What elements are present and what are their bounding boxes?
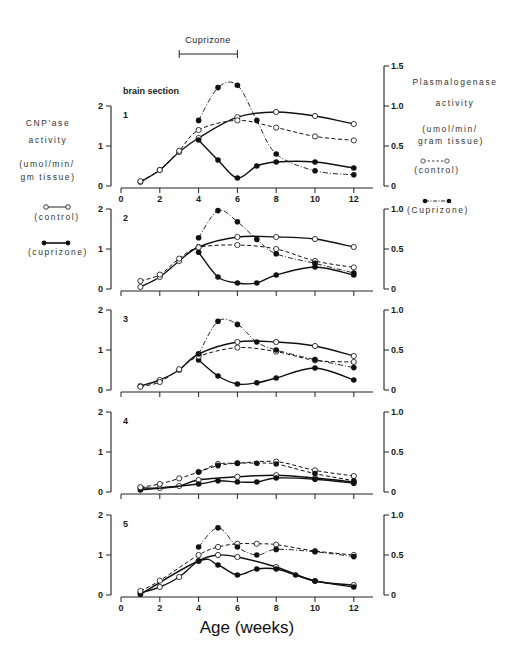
data-point-open [235,474,240,479]
data-point-filled [235,544,241,550]
series-line [140,341,353,386]
data-point-open [274,234,279,239]
panel-number: 5 [123,519,128,529]
right-tick-label: 0 [391,385,396,395]
legend-plasmalogenase-cuprizone: (Cuprizone) [407,199,469,215]
data-point-filled [235,280,241,286]
series-plasmalogenase-control [138,541,357,593]
left-tick-label: 2 [98,204,103,214]
right-axis-title-line: gram tissue) [418,136,484,146]
left-tick-label: 2 [98,305,103,315]
right-legend: (control) (Cuprizone) [407,159,469,215]
data-point-open [235,339,240,344]
right-tick-label: 0 [391,590,396,600]
series-line [199,252,354,284]
data-point-open [235,345,240,350]
left-axis-title-line: gm tissue) [20,172,75,182]
x-tick-label: 8 [274,194,279,204]
data-point-filled [273,347,279,353]
right-tick-label: 0.5 [391,141,404,151]
legend-label: (control) [414,165,460,175]
left-legend: (control) (cuprizone) [28,205,88,257]
data-point-filled [196,558,202,564]
data-point-filled [235,572,241,578]
data-point-open [235,118,240,123]
x-tick-label: 10 [310,603,320,613]
data-point-filled [235,175,241,181]
x-tick-label: 4 [196,603,201,613]
series-line [140,544,353,591]
series-plasmalogenase-control [138,345,357,389]
data-point-filled [235,82,241,88]
data-point-filled [312,476,318,482]
series-line [199,140,354,178]
data-point-open [254,541,259,546]
left-tick-label: 1 [98,244,103,254]
data-point-filled [273,547,279,553]
right-tick-label: 0 [391,181,396,191]
series-cnpase-cuprizone [138,558,357,597]
data-point-open [177,256,182,261]
x-tick-label: 8 [274,603,279,613]
right-axis-title-line: activity [436,98,475,108]
data-point-filled [215,157,221,163]
x-tick-label: 12 [349,603,359,613]
data-point-open [177,574,182,579]
x-tick-label: 0 [118,194,123,204]
panel-5: 01200.51.00246810125 [98,510,404,613]
data-point-open [157,167,162,172]
data-point-filled [273,566,279,572]
left-tick-label: 1 [98,550,103,560]
data-point-open [215,552,220,557]
data-point-filled [273,475,279,481]
data-point-filled [351,165,357,171]
x-tick-label: 6 [235,603,240,613]
panel-3: 01200.51.03 [98,305,404,397]
x-tick-label: 12 [349,194,359,204]
series-line [140,461,353,487]
right-tick-label: 0.5 [391,447,404,457]
data-point-filled [215,318,221,324]
data-point-filled [235,219,241,225]
data-point-open [351,244,356,249]
x-axis-title: Age (weeks) [200,618,294,637]
panels: 01200.51.01.5024681012101200.51.0201200.… [98,61,404,613]
data-point-open [235,234,240,239]
x-tick-label: 2 [157,194,162,204]
data-point-filled [351,478,357,484]
data-point-open [351,138,356,143]
data-point-filled [196,544,202,550]
data-point-filled [196,351,202,357]
data-point-filled [273,251,279,257]
data-point-filled [235,381,241,387]
data-point-open [157,379,162,384]
data-point-open [312,236,317,241]
data-point-filled [215,208,221,214]
series-line [140,112,353,182]
right-tick-label: 1.0 [391,101,404,111]
data-point-filled [273,159,279,165]
data-point-filled [351,584,357,590]
data-point-open [138,284,143,289]
data-point-open [351,121,356,126]
right-tick-label: 0 [391,487,396,497]
data-point-filled [312,578,318,584]
data-point-filled [196,469,202,475]
data-point-filled [235,479,241,485]
figure: Cuprizone brain section CNP'ase activity… [0,0,520,664]
data-point-filled [254,237,260,243]
right-tick-label: 1.0 [391,407,404,417]
left-tick-label: 0 [98,284,103,294]
data-point-filled [312,261,318,267]
data-point-open [138,485,143,490]
series-line [140,236,353,287]
cuprizone-label: Cuprizone [185,35,231,45]
data-point-open [274,542,279,547]
data-point-open [177,148,182,153]
data-point-open [351,473,356,478]
right-axis-title: Plasmalogenase activity (umol/min/ gram … [412,77,497,146]
data-point-filled [351,377,357,383]
data-point-open [235,554,240,559]
data-point-open [312,343,317,348]
data-point-open [177,476,182,481]
